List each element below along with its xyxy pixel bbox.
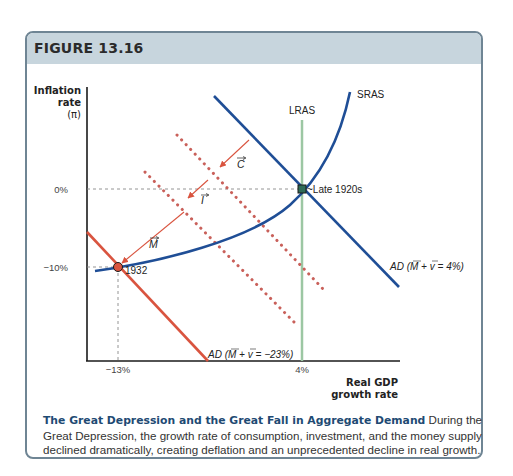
- caption-title: The Great Depression and the Great Fall …: [43, 414, 425, 427]
- sras-label: SRAS: [357, 89, 385, 100]
- ad-as-chart: Inflation rate (π) 0% −10% −13% 4% Real …: [0, 0, 513, 476]
- label-1932: 1932: [125, 265, 148, 276]
- y-axis-label-1: Inflation: [34, 85, 81, 96]
- svg-text:C: C: [237, 158, 245, 170]
- label-i: I: [201, 194, 209, 207]
- late-1920s-point: [298, 185, 306, 193]
- x-tick-minus13: −13%: [106, 364, 131, 375]
- figure-caption: The Great Depression and the Great Fall …: [43, 413, 483, 458]
- x-axis-label-1: Real GDP: [346, 377, 398, 388]
- label-m: M: [149, 237, 159, 251]
- x-tick-4: 4%: [295, 364, 309, 375]
- ad-high-label: AD (M + v = 4%): [389, 261, 464, 272]
- y-axis-label-3: (π): [67, 109, 81, 120]
- x-axis-label-2: growth rate: [331, 389, 398, 400]
- ad-dotted-i: [145, 172, 295, 323]
- lras-label: LRAS: [289, 105, 315, 116]
- y-tick-0: 0%: [54, 184, 68, 195]
- late-1920s-label: ~Late 1920s: [307, 184, 362, 195]
- arrow-c: [220, 140, 249, 167]
- svg-text:M: M: [149, 238, 158, 250]
- y-tick-minus10: −10%: [43, 262, 68, 273]
- ad-low-label: AD (M + v = −23%): [207, 349, 293, 360]
- point-1932: [114, 263, 123, 272]
- label-c: C: [237, 157, 246, 171]
- y-axis-label-2: rate: [58, 97, 81, 108]
- svg-text:I: I: [201, 194, 204, 206]
